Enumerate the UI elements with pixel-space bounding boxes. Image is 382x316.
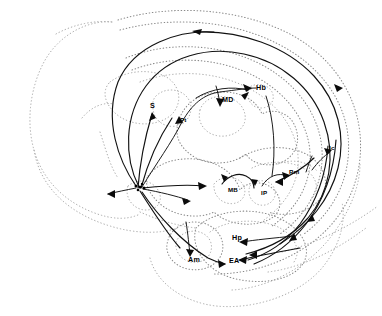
- ventral-outline: [140, 212, 196, 228]
- anatomical-outlines-group: [30, 10, 378, 306]
- tract-stria-medullaris: [142, 88, 256, 187]
- cortex-fragment-upper-left: [56, 22, 112, 35]
- diagram-canvas: S Pt MD Hb lc Rm MB IP Hp Am EA: [0, 0, 382, 316]
- arrowhead-rm: [275, 178, 283, 186]
- occipital-sweep-2: [268, 228, 366, 272]
- label-Am: Am: [188, 255, 200, 264]
- tract-mfb-to-mb: [143, 185, 204, 188]
- label-Rm: Rm: [289, 168, 300, 175]
- brain-circuit-figure: S Pt MD Hb lc Rm MB IP Hp Am EA: [0, 0, 382, 316]
- structure-labels-group: S Pt MD Hb lc Rm MB IP Hp Am EA: [150, 83, 335, 265]
- arrowhead-to-hb: [243, 84, 252, 92]
- label-Pt: Pt: [180, 116, 187, 123]
- label-Hp: Hp: [232, 233, 242, 242]
- hub-dot-3: [143, 187, 146, 190]
- tract-hp-to-ea: [240, 248, 300, 260]
- hypothalamus-outline: [146, 159, 279, 224]
- arrowheads-group: [107, 29, 343, 268]
- hub-dot-2: [139, 186, 142, 189]
- arrowhead-right-outer: [334, 84, 343, 92]
- arrowhead-mfb-right: [198, 182, 207, 190]
- fiber-tracts-group: [108, 32, 341, 264]
- arrowhead-septum: [149, 112, 156, 121]
- hub-dot-5: [141, 183, 143, 185]
- label-MB: MB: [228, 186, 238, 193]
- arrowhead-hub-left: [107, 190, 115, 198]
- label-EA: EA: [229, 256, 239, 265]
- hub-dot-1: [135, 185, 138, 188]
- arrowhead-ea-in: [218, 260, 226, 268]
- label-IP: IP: [261, 189, 267, 196]
- brain-outer-ring-2: [120, 22, 349, 234]
- thalamus-outline: [177, 92, 298, 165]
- tract-fornix-column-left: [138, 114, 152, 188]
- label-MD: MD: [222, 95, 234, 104]
- outer-cortex-outline: [30, 22, 140, 218]
- tract-fornix-column-right: [141, 118, 172, 188]
- label-Hb: Hb: [256, 83, 266, 92]
- label-lc: lc: [329, 144, 335, 151]
- tract-cingulate-dorsal: [112, 32, 214, 186]
- lateral-ventricle-outline: [105, 72, 179, 124]
- hub-dot-4: [137, 189, 140, 192]
- label-S: S: [150, 101, 155, 110]
- tract-mfb-branch: [143, 189, 188, 200]
